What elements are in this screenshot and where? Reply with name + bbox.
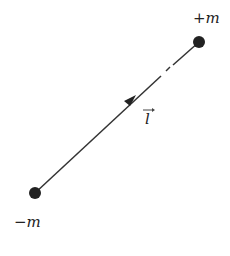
positive-pole-label: +m [193, 11, 220, 26]
vector-l-label: l [145, 112, 150, 127]
dipole-diagram: +m −m l [0, 0, 230, 256]
negative-pole-node [29, 187, 41, 199]
vector-arrow-head-icon [152, 108, 155, 112]
negative-pole-label: −m [14, 215, 41, 230]
dipole-line-mid [166, 67, 170, 71]
dipole-line-lower [35, 76, 161, 193]
positive-pole-node [193, 36, 205, 48]
